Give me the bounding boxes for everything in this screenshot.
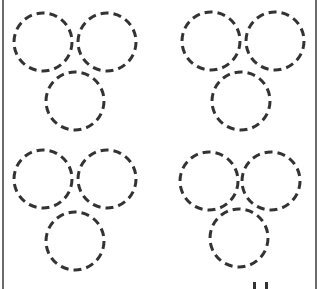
dashed-circle [78,150,136,208]
dashed-circle [14,13,72,71]
dashed-circle [210,209,268,267]
dash-mark [253,282,256,289]
dashed-circle-groups [0,0,320,289]
dashed-circle [78,13,136,71]
circle-group-bottom-right [180,152,300,267]
circle-group-top-left [14,13,136,130]
worksheet-frame [0,0,320,289]
dashed-circle [246,12,304,70]
circle-group-bottom-left [14,150,136,270]
dashed-circle [212,72,270,130]
dashed-circle [180,152,238,210]
dashed-circle [242,152,300,210]
dash-mark [265,282,268,289]
dashed-circle [46,212,104,270]
circle-group-top-right [182,12,304,130]
dashed-circle [182,12,240,70]
dashed-circle [14,150,72,208]
dashed-circle [46,72,104,130]
